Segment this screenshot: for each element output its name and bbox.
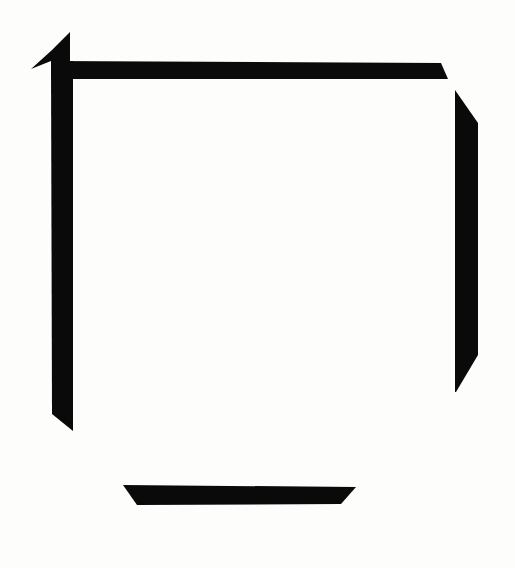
artboard [0, 0, 515, 568]
artwork-canvas [0, 0, 515, 568]
left-vertical-bar-stroke [51, 61, 73, 431]
top-horizontal-bar-stroke [51, 61, 448, 79]
canvas-background [0, 0, 515, 568]
right-vertical-bar-stroke [455, 90, 478, 392]
bottom-horizontal-bar-stroke [123, 485, 356, 505]
